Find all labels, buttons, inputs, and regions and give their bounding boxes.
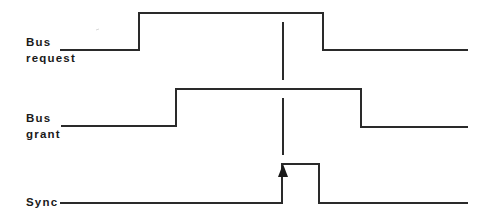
bus-grant-label-line2: grant — [26, 128, 61, 140]
bus-grant-waveform — [61, 89, 468, 127]
scan-artifact — [96, 29, 99, 30]
bus-request-waveform — [60, 13, 468, 50]
up-arrow-icon — [278, 164, 288, 177]
bus-request-label-line1: Bus — [26, 36, 51, 48]
bus-grant-label-line1: Bus — [26, 112, 51, 124]
sync-waveform — [60, 164, 468, 203]
bus-request-label-line2: request — [26, 52, 76, 64]
timing-diagram: Bus request Bus grant Sync — [0, 0, 491, 215]
sync-label: Sync — [26, 196, 58, 208]
